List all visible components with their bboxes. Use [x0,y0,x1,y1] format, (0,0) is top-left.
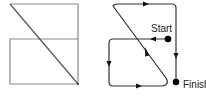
left-lower-rectangle [10,39,78,84]
start-dot [165,36,172,43]
start-label: Start [151,23,172,34]
arrow-down-icon [107,61,112,67]
finish-dot [173,79,180,86]
left-corner-dot [77,83,79,85]
finish-label: Finish [183,79,206,90]
arrow-right-icon [136,84,142,89]
arrow-left-icon [150,37,156,42]
arrow-right-icon [143,2,149,7]
diagram-canvas: Start Finish [0,0,206,97]
figure-right-path [107,2,180,89]
left-diagonal [10,4,78,84]
figure-left-shape [10,4,79,85]
right-diagonal [113,6,167,86]
right-top-edge [113,4,176,81]
arrow-up-left-icon [145,47,149,57]
right-middle-and-left-edge [109,39,168,86]
arrow-down-icon [174,53,179,59]
